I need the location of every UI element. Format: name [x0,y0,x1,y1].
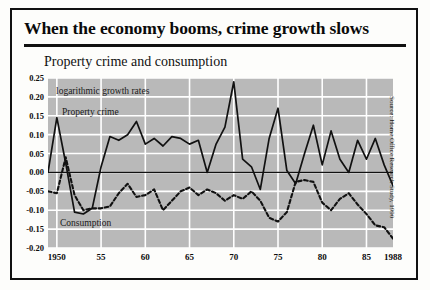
x-tick-label: 80 [318,252,327,262]
x-tick-label: 55 [97,252,106,262]
x-tick-label: 1950 [48,252,66,262]
x-tick-label: 60 [141,252,150,262]
x-tick-label: 65 [185,252,194,262]
source-note: Source: Home Office Research Study, 1990 [388,96,396,218]
x-tick-label: 75 [274,252,283,262]
x-tick-label: 1988 [384,252,402,262]
x-axis-labels: 1950556065707580851988 [0,0,430,290]
x-tick-label: 70 [229,252,238,262]
screenshot-page: When the economy booms, crime growth slo… [0,0,430,290]
x-tick-label: 85 [362,252,371,262]
series-label-consumption: Consumption [60,218,111,228]
annotation-log-note: logarithmic growth rates [56,86,149,96]
series-label-property-crime: Property crime [62,107,119,117]
